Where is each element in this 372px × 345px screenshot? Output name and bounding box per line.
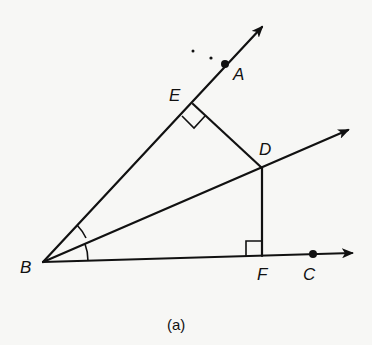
point-c-dot: [309, 250, 317, 258]
right-angle-mark-e: [182, 116, 205, 128]
figure-caption: (a): [167, 316, 185, 333]
segment-de: [193, 104, 262, 168]
label-a: A: [232, 65, 244, 84]
label-c: C: [303, 265, 316, 284]
angle-arc-dbc: [85, 244, 88, 261]
geometry-diagram: A E D B F C (a): [0, 0, 372, 345]
label-f: F: [257, 265, 269, 284]
ray-bd-bisector: [43, 130, 348, 262]
ray-bc: [43, 253, 352, 262]
point-a-dot: [221, 60, 229, 68]
speck-1: [192, 50, 195, 53]
speck-2: [209, 56, 212, 59]
label-e: E: [169, 86, 181, 105]
label-b: B: [20, 258, 31, 277]
angle-arc-abd: [77, 225, 86, 238]
ray-ba: [43, 27, 262, 262]
label-d: D: [259, 140, 271, 159]
